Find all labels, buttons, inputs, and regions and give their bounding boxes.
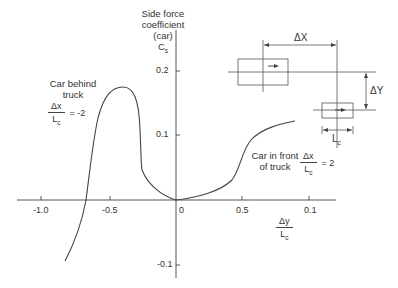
x-tick-neg-0.5: -0.5 — [102, 205, 118, 215]
y-tick-0.2: 0.2 — [156, 65, 169, 75]
lc-label: Lc — [332, 133, 341, 146]
y-axis-label: Side force coefficient (car) Cs — [128, 8, 198, 56]
delta-x-label: ΔX — [294, 32, 307, 43]
behind-condition: Δx Lc = -2 — [48, 101, 85, 126]
x-tick-0: 0 — [179, 205, 184, 215]
y-tick-0.1: 0.1 — [156, 129, 169, 139]
x-tick-0.1: 0.1 — [304, 205, 317, 215]
front-condition: Δx Lc = 2 — [300, 151, 334, 176]
car-behind-truck-label: Car behind truck — [38, 78, 108, 100]
x-tick-0.5: 0.5 — [236, 205, 249, 215]
x-tick-neg-1.0: -1.0 — [33, 205, 49, 215]
delta-y-label: ΔY — [370, 85, 383, 96]
inset-diagram — [228, 40, 376, 148]
y-tick-neg-0.1: -0.1 — [157, 259, 173, 269]
x-axis-label: Δy Lc — [276, 216, 293, 241]
side-force-curve — [65, 87, 295, 261]
arrowheads — [264, 43, 368, 132]
